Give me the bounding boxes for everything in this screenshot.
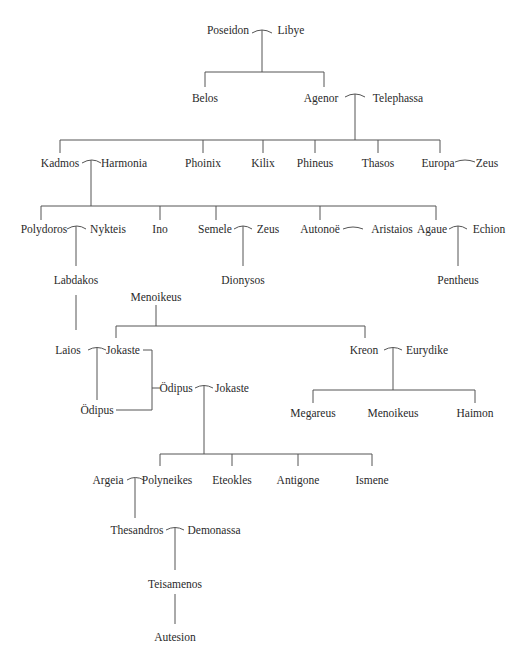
person-megareus: Megareus [290,406,335,420]
person-menoikeus-1: Menoikeus [130,290,181,304]
person-thasos: Thasos [362,156,395,170]
person-menoikeus-2: Menoikeus [367,406,418,420]
person-aristaios: Aristaios [371,222,413,236]
person-zeus-1: Zeus [476,156,498,170]
person-thesandros: Thesandros [110,523,163,537]
person-autesion: Autesion [154,630,196,644]
person-phoinix: Phoinix [185,156,221,170]
person-jokaste-2: Jokaste [215,381,249,395]
person-poseidon: Poseidon [207,23,249,37]
person-kadmos: Kadmos [41,156,79,170]
person-labdakos: Labdakos [54,273,99,287]
person-ino: Ino [152,222,167,236]
person-phineus: Phineus [297,156,333,170]
person-oedipus-1: Ödipus [80,403,113,417]
person-kilix: Kilix [251,156,275,170]
person-zeus-2: Zeus [257,222,279,236]
person-demonassa: Demonassa [187,523,240,537]
person-argeia: Argeia [92,473,123,487]
person-autonoe: Autonoë [300,222,340,236]
person-echion: Echion [473,222,506,236]
person-oedipus-2: Ödipus [159,381,192,395]
person-kreon: Kreon [350,343,379,357]
person-jokaste-1: Jokaste [106,343,140,357]
person-laios: Laios [55,343,81,357]
person-nykteis: Nykteis [90,222,126,236]
person-agenor: Agenor [304,91,339,105]
person-harmonia: Harmonia [101,156,147,170]
person-pentheus: Pentheus [437,273,479,287]
person-dionysos: Dionysos [221,273,264,287]
person-eteokles: Eteokles [212,473,252,487]
person-teisamenos: Teisamenos [148,577,202,591]
person-polydoros: Polydoros [21,222,68,236]
person-haimon: Haimon [456,406,493,420]
family-tree-connectors [0,0,515,654]
person-agaue: Agaue [417,222,447,236]
person-europa: Europa [421,156,454,170]
person-belos: Belos [192,91,218,105]
person-eurydike: Eurydike [406,343,448,357]
person-ismene: Ismene [355,473,388,487]
person-semele: Semele [198,222,232,236]
person-polyneikes: Polyneikes [142,473,192,487]
person-antigone: Antigone [277,473,320,487]
person-libye: Libye [278,23,305,37]
person-telephassa: Telephassa [373,91,423,105]
